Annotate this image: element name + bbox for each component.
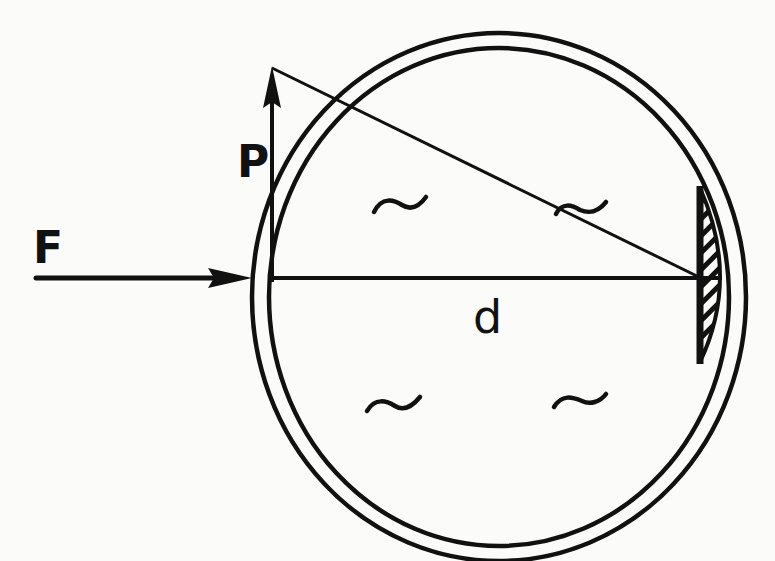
force-label: F [33,226,63,270]
tilde-symbol [554,394,606,407]
diagram-figure: F P d [0,0,775,561]
distance-label: d [473,294,502,340]
tilde-symbol [367,397,420,411]
tilde-symbol [374,197,426,212]
diagram-canvas [0,0,775,561]
perpendicular-label: P [237,140,269,184]
force-arrow [36,268,252,288]
